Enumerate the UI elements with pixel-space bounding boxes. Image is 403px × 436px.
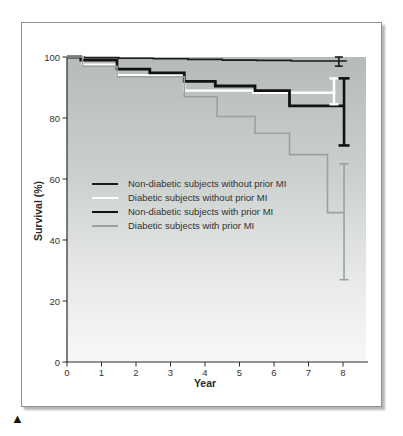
legend-label: Non-diabetic subjects with prior MI bbox=[128, 205, 273, 219]
svg-text:40: 40 bbox=[49, 235, 60, 246]
legend-line-sample bbox=[92, 197, 118, 199]
legend-label: Diabetic subjects with prior MI bbox=[128, 219, 254, 233]
svg-text:0: 0 bbox=[55, 357, 60, 368]
figure-frame: 020406080100012345678 Survival (%) Year … bbox=[21, 22, 382, 407]
legend-line-sample bbox=[92, 225, 118, 227]
legend: Non-diabetic subjects without prior MIDi… bbox=[92, 177, 286, 233]
svg-text:20: 20 bbox=[49, 296, 60, 307]
y-axis-ticks bbox=[63, 57, 68, 362]
y-axis-tick-labels: 020406080100 bbox=[44, 52, 60, 368]
legend-line-sample bbox=[92, 211, 118, 214]
legend-label: Diabetic subjects without prior MI bbox=[128, 191, 267, 205]
x-axis-ticks bbox=[67, 362, 343, 367]
legend-item: Non-diabetic subjects without prior MI bbox=[92, 177, 286, 191]
figure-marker-triangle: ▲ bbox=[11, 412, 24, 426]
svg-text:100: 100 bbox=[44, 52, 60, 63]
legend-item: Diabetic subjects without prior MI bbox=[92, 191, 286, 205]
y-axis-title: Survival (%) bbox=[32, 181, 44, 241]
legend-label: Non-diabetic subjects without prior MI bbox=[128, 177, 286, 191]
legend-item: Non-diabetic subjects with prior MI bbox=[92, 205, 286, 219]
svg-text:60: 60 bbox=[49, 174, 60, 185]
svg-text:80: 80 bbox=[49, 113, 60, 124]
x-axis-title: Year bbox=[67, 377, 343, 389]
legend-item: Diabetic subjects with prior MI bbox=[92, 219, 286, 233]
legend-line-sample bbox=[92, 183, 118, 185]
